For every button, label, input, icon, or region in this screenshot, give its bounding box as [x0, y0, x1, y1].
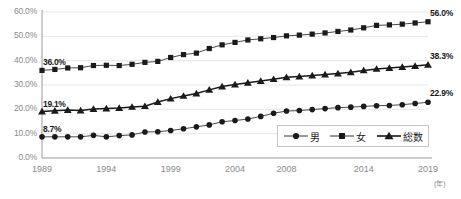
square-marker-icon: [329, 130, 355, 142]
series-end-value-label: 22.9%: [430, 88, 453, 98]
y-axis-tick-label: 10.0%: [0, 128, 37, 138]
legend-label: 総数: [403, 129, 423, 144]
y-axis-tick-label: 30.0%: [0, 79, 37, 89]
y-axis-tick-label: 20.0%: [0, 103, 37, 113]
x-axis-tick-label: 1989: [22, 164, 62, 174]
triangle-marker-icon: [376, 130, 402, 142]
y-axis-tick-label: 50.0%: [0, 30, 37, 40]
x-axis-unit-label: (年): [434, 178, 446, 188]
chart-container: 0.0%10.0%20.0%30.0%40.0%50.0%60.0% 19891…: [0, 0, 461, 199]
series-triangle: [38, 61, 432, 114]
series-start-value-label: 36.0%: [43, 57, 66, 67]
legend-label: 女: [356, 129, 366, 144]
y-axis-tick-label: 60.0%: [0, 6, 37, 16]
y-axis-tick-label: 0.0%: [0, 152, 37, 162]
series-start-value-label: 8.7%: [43, 124, 61, 134]
x-axis-tick-label: 2014: [344, 164, 384, 174]
series-end-value-label: 56.0%: [430, 8, 453, 18]
series-start-value-label: 19.1%: [43, 99, 66, 109]
circle-marker-icon: [283, 130, 309, 142]
legend-item-square[interactable]: 女: [329, 129, 366, 144]
legend-item-triangle[interactable]: 総数: [376, 129, 423, 144]
x-axis-tick-label: 1994: [86, 164, 126, 174]
series-end-value-label: 38.3%: [430, 51, 453, 61]
x-axis-tick-label: 2008: [266, 164, 306, 174]
x-axis-tick-label: 2019: [408, 164, 448, 174]
x-axis-tick-label: 1999: [151, 164, 191, 174]
series-square: [39, 19, 430, 73]
x-axis-tick-label: 2004: [215, 164, 255, 174]
legend-item-circle[interactable]: 男: [283, 129, 320, 144]
legend-label: 男: [310, 129, 320, 144]
y-axis-tick-label: 40.0%: [0, 55, 37, 65]
chart-legend[interactable]: 男女総数: [277, 125, 429, 147]
